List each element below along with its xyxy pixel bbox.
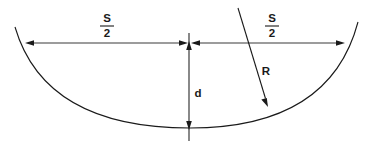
half-chord-left-numerator: S	[103, 12, 111, 24]
half-chord-left-denominator: 2	[104, 27, 110, 39]
arrow-center-left-icon	[179, 40, 188, 46]
arrow-left-outer-icon	[25, 40, 34, 46]
label-half-chord-left: S 2	[100, 12, 114, 39]
half-chord-right-denominator: 2	[269, 27, 275, 39]
arrow-right-outer-icon	[336, 40, 345, 46]
label-half-chord-right: S 2	[265, 12, 279, 39]
arrow-depth-top-icon	[186, 41, 192, 50]
diagram-canvas: S 2 S 2 d R	[0, 0, 369, 148]
arrow-center-right-icon	[191, 40, 200, 46]
half-chord-right-numerator: S	[268, 12, 276, 24]
depth-label: d	[194, 87, 201, 99]
radius-line	[238, 8, 266, 99]
arrow-radius-icon	[261, 98, 268, 107]
arrow-depth-bottom-icon	[186, 121, 192, 130]
radius-label: R	[262, 65, 271, 77]
circle-arc	[15, 22, 358, 128]
circular-segment-diagram: S 2 S 2 d R	[0, 0, 369, 148]
